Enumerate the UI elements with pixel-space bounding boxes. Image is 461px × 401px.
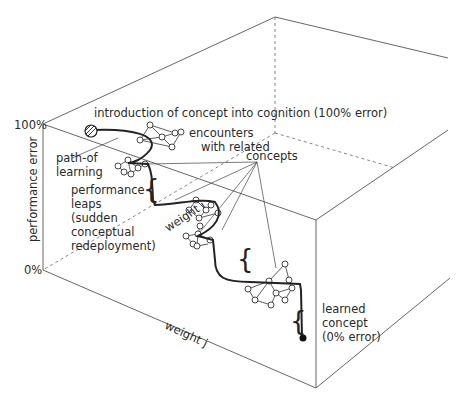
top-back-edge (275, 17, 448, 58)
leaps-label: leaps (71, 197, 102, 211)
right-top-edge (316, 130, 448, 220)
leaps-label: redeployment) (71, 239, 156, 253)
leaps-label: conceptual (71, 225, 134, 239)
learned-label: learned (322, 302, 366, 316)
learned-label: concept (322, 316, 368, 330)
path-label: learning (56, 165, 103, 179)
leaps-label: (sudden (71, 211, 118, 225)
path-label: path-of (56, 151, 99, 165)
learning-path-diagram: { { { 100% 0% performance error weight j… (0, 0, 461, 401)
box-edges (43, 17, 450, 388)
learned-label: (0% error) (322, 330, 381, 344)
start-point-icon (85, 125, 97, 137)
leaps-label: performance (71, 183, 145, 197)
encounters-label: concepts (246, 149, 298, 163)
intro-label: introduction of concept into cognition (… (94, 106, 387, 120)
y-top-label: 100% (14, 118, 47, 132)
brace-icon: { (237, 244, 254, 274)
encounters-label: encounters (189, 126, 254, 140)
y-bottom-label: 0% (24, 263, 42, 277)
brace-icon: { (290, 306, 307, 336)
y-axis-label: performance error (26, 137, 40, 242)
brace-icon: { (143, 174, 160, 204)
weight-j-label: weight j (163, 318, 210, 350)
